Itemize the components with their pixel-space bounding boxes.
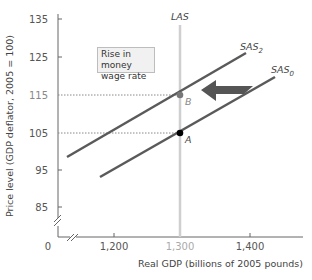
las-label: LAS bbox=[171, 11, 189, 22]
sas2-curve bbox=[67, 53, 246, 157]
x-tick-1200: 1,200 bbox=[100, 241, 129, 252]
sas0-label: SAS0 bbox=[271, 64, 295, 78]
sas0-curve bbox=[100, 77, 275, 177]
annotation-box: Rise in money wage rate bbox=[97, 47, 155, 73]
y-tick-135: 135 bbox=[29, 14, 48, 25]
x-axis-title: Real GDP (billions of 2005 pounds) bbox=[138, 258, 303, 269]
x-tick-1300: 1,300 bbox=[166, 241, 195, 252]
chart: Price level (GDP deflator, 2005 = 100) 1… bbox=[0, 0, 312, 280]
y-tick-85: 85 bbox=[35, 202, 48, 213]
annotation-line-2: wage rate bbox=[101, 71, 151, 82]
point-a-label: A bbox=[184, 134, 192, 145]
sas2-label: SAS2 bbox=[240, 41, 264, 55]
annotation-line-1: Rise in money bbox=[101, 49, 151, 71]
y-tick-125: 125 bbox=[29, 52, 48, 63]
x-tick-1400: 1,400 bbox=[236, 241, 265, 252]
y-tick-105: 105 bbox=[29, 128, 48, 139]
point-b-label: B bbox=[185, 96, 192, 107]
point-a bbox=[177, 130, 184, 137]
point-b bbox=[177, 92, 184, 99]
y-axis bbox=[54, 14, 62, 237]
y-tick-95: 95 bbox=[35, 165, 48, 176]
y-axis-title: Price level (GDP deflator, 2005 = 100) bbox=[4, 35, 15, 217]
y-tick-115: 115 bbox=[29, 90, 48, 101]
origin-label: 0 bbox=[45, 241, 51, 252]
shift-left-arrow-icon bbox=[201, 80, 253, 101]
